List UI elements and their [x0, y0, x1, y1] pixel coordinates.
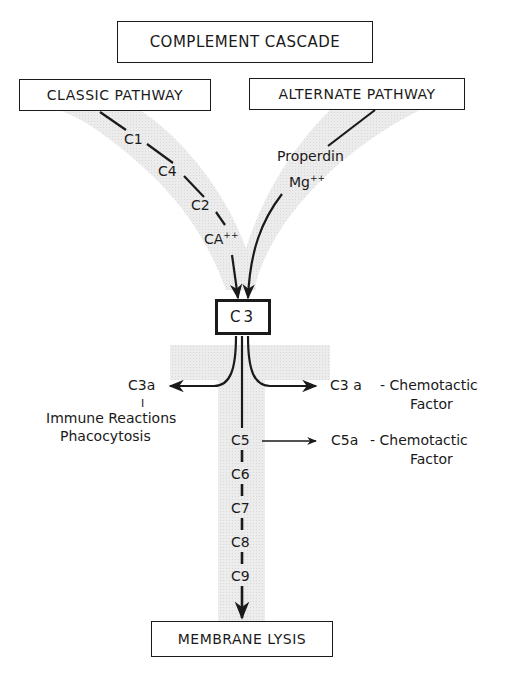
step-c4: C4: [158, 163, 177, 180]
c3a-left-label: C3a: [128, 377, 155, 394]
magnesium-charge: ++: [310, 173, 325, 183]
immune-reactions-label: Immune Reactions: [46, 410, 176, 427]
title-box: COMPLEMENT CASCADE: [117, 21, 373, 63]
c3-box: C3: [215, 299, 271, 335]
shaded-background: [60, 110, 420, 630]
c3a-chemotactic-label: - Chemotactic: [380, 377, 478, 394]
step-c7: C7: [231, 500, 250, 517]
step-c5: C5: [231, 432, 250, 449]
c5a-factor-label: Factor: [410, 451, 453, 468]
magnesium-text: Mg: [289, 174, 310, 190]
step-c9: C9: [231, 568, 250, 585]
phacocytosis-label: Phacocytosis: [60, 428, 151, 445]
classic-pathway-label: CLASSIC PATHWAY: [47, 87, 183, 103]
calcium-charge: ++: [223, 230, 238, 240]
step-c8: C8: [231, 534, 250, 551]
membrane-lysis-label: MEMBRANE LYSIS: [178, 631, 307, 647]
alternate-pathway-box: ALTERNATE PATHWAY: [249, 78, 465, 110]
membrane-lysis-box: MEMBRANE LYSIS: [151, 621, 333, 657]
step-c2: C2: [191, 197, 210, 214]
alternate-pathway-label: ALTERNATE PATHWAY: [278, 86, 435, 102]
classic-pathway-box: CLASSIC PATHWAY: [19, 79, 211, 111]
step-c6: C6: [231, 466, 250, 483]
c3-label: C3: [230, 308, 256, 326]
c3a-factor-label: Factor: [410, 396, 453, 413]
c5a-chemotactic-label: - Chemotactic: [370, 432, 468, 449]
properdin-label: Properdin: [277, 148, 344, 165]
step-c1: C1: [124, 131, 143, 148]
calcium-label: CA: [204, 231, 223, 247]
c3a-right-label: C3 a: [330, 377, 362, 394]
c5a-label: C5a: [331, 432, 358, 449]
title-text: COMPLEMENT CASCADE: [150, 33, 341, 51]
magnesium-label: Mg++: [289, 170, 325, 191]
step-ca: CA++: [204, 227, 238, 248]
